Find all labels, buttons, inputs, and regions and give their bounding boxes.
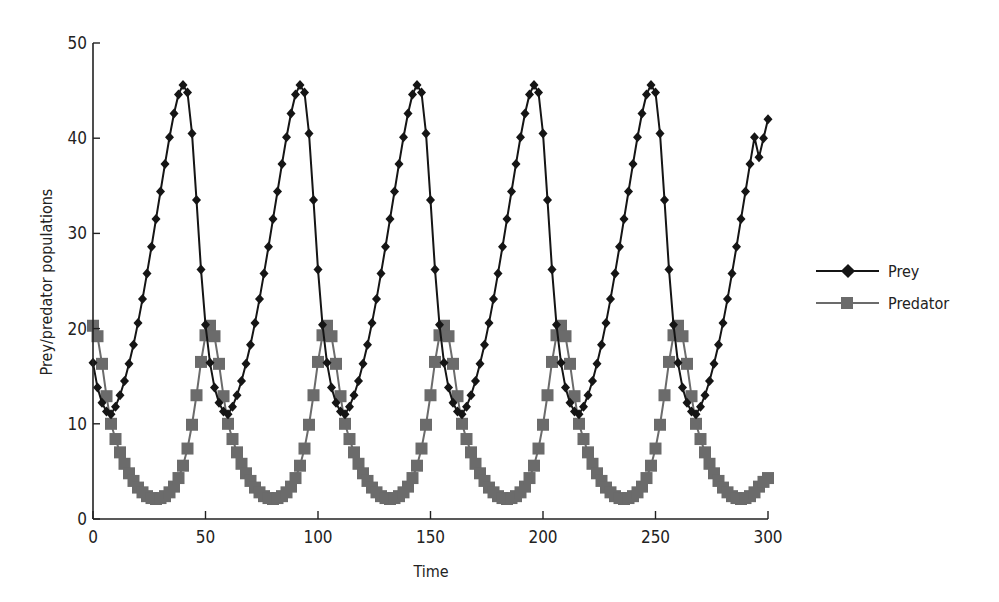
diamond-marker-icon <box>422 128 431 138</box>
square-marker-icon <box>425 389 437 401</box>
diamond-marker-icon <box>624 187 633 197</box>
square-marker-icon <box>407 472 419 484</box>
diamond-marker-icon <box>408 89 417 99</box>
diamond-marker-icon <box>381 242 390 252</box>
square-marker-icon <box>663 356 675 368</box>
diamond-marker-icon <box>116 390 125 400</box>
square-marker-icon <box>312 356 324 368</box>
diamond-marker-icon <box>143 268 152 278</box>
diamond-marker-icon <box>714 340 723 350</box>
square-marker-icon <box>182 443 194 455</box>
diamond-marker-icon <box>170 108 179 118</box>
x-tick-label: 300 <box>753 527 782 547</box>
square-marker-icon <box>420 419 432 431</box>
square-marker-icon <box>695 433 707 445</box>
diamond-marker-icon <box>584 390 593 400</box>
diamond-marker-icon <box>732 242 741 252</box>
diamond-marker-icon <box>516 132 525 142</box>
diamond-marker-icon <box>125 359 134 369</box>
square-marker-icon <box>326 330 338 342</box>
diamond-marker-icon <box>588 376 597 386</box>
diamond-marker-icon <box>633 132 642 142</box>
diamond-marker-icon <box>755 152 764 162</box>
square-marker-icon <box>411 460 423 472</box>
square-marker-icon <box>677 330 689 342</box>
square-marker-icon <box>429 356 441 368</box>
square-marker-icon <box>344 433 356 445</box>
square-marker-icon <box>645 460 657 472</box>
diamond-marker-icon <box>737 214 746 224</box>
diamond-marker-icon <box>620 214 629 224</box>
square-marker-icon <box>650 443 662 455</box>
square-marker-icon <box>690 418 702 430</box>
diamond-marker-icon <box>525 89 534 99</box>
predator-prey-chart: 01020304050050100150200250300 Prey/preda… <box>0 0 999 602</box>
diamond-marker-icon <box>597 340 606 350</box>
diamond-marker-icon <box>260 268 269 278</box>
square-marker-icon <box>213 358 225 370</box>
diamond-marker-icon <box>372 294 381 304</box>
diamond-marker-icon <box>710 359 719 369</box>
diamond-marker-icon <box>485 318 494 328</box>
legend-item-predator: Predator <box>816 294 949 313</box>
diamond-marker-icon <box>161 159 170 169</box>
diamond-marker-icon <box>705 376 714 386</box>
square-marker-icon <box>465 446 477 458</box>
diamond-marker-icon <box>264 242 273 252</box>
square-marker-icon <box>231 446 243 458</box>
diamond-marker-icon <box>134 318 143 328</box>
square-marker-icon <box>447 358 459 370</box>
square-marker-icon <box>294 460 306 472</box>
diamond-marker-icon <box>426 195 435 205</box>
square-marker-icon <box>582 446 594 458</box>
diamond-marker-icon <box>188 128 197 138</box>
square-marker-icon <box>681 358 693 370</box>
x-tick-label: 150 <box>416 527 445 547</box>
square-marker-icon <box>533 443 545 455</box>
diamond-marker-icon <box>741 187 750 197</box>
square-marker-icon <box>348 446 360 458</box>
legend-item-prey: Prey <box>816 262 920 281</box>
diamond-marker-icon <box>363 340 372 350</box>
legend-label-prey: Prey <box>888 262 920 281</box>
diamond-marker-icon <box>120 376 129 386</box>
diamond-marker-icon <box>269 214 278 224</box>
diamond-marker-icon <box>273 187 282 197</box>
square-marker-icon <box>222 418 234 430</box>
y-tick-label: 30 <box>68 223 87 243</box>
diamond-marker-icon <box>489 294 498 304</box>
diamond-marker-icon <box>282 132 291 142</box>
square-marker-icon <box>186 419 198 431</box>
square-marker-icon <box>96 358 108 370</box>
diamond-marker-icon <box>287 108 296 118</box>
diamond-marker-icon <box>309 195 318 205</box>
diamond-marker-icon <box>233 390 242 400</box>
diamond-marker-icon <box>503 214 512 224</box>
square-marker-icon <box>105 418 117 430</box>
square-marker-icon <box>339 418 351 430</box>
diamond-marker-icon <box>314 265 323 275</box>
diamond-marker-icon <box>841 264 855 278</box>
diamond-marker-icon <box>750 132 759 142</box>
diamond-marker-icon <box>192 195 201 205</box>
square-marker-icon <box>110 433 122 445</box>
square-marker-icon <box>841 297 853 309</box>
square-marker-icon <box>443 330 455 342</box>
square-marker-icon <box>573 418 585 430</box>
diamond-marker-icon <box>759 133 768 143</box>
diamond-marker-icon <box>521 108 530 118</box>
diamond-marker-icon <box>642 89 651 99</box>
diamond-marker-icon <box>174 89 183 99</box>
x-tick-label: 50 <box>196 527 215 547</box>
square-marker-icon <box>762 472 774 484</box>
x-tick-label: 0 <box>88 527 98 547</box>
square-marker-icon <box>461 433 473 445</box>
diamond-marker-icon <box>399 132 408 142</box>
diamond-marker-icon <box>152 214 161 224</box>
diamond-marker-icon <box>129 340 138 350</box>
square-marker-icon <box>227 433 239 445</box>
diamond-marker-icon <box>764 114 773 124</box>
diamond-marker-icon <box>291 89 300 99</box>
diamond-marker-icon <box>728 268 737 278</box>
diamond-marker-icon <box>507 187 516 197</box>
